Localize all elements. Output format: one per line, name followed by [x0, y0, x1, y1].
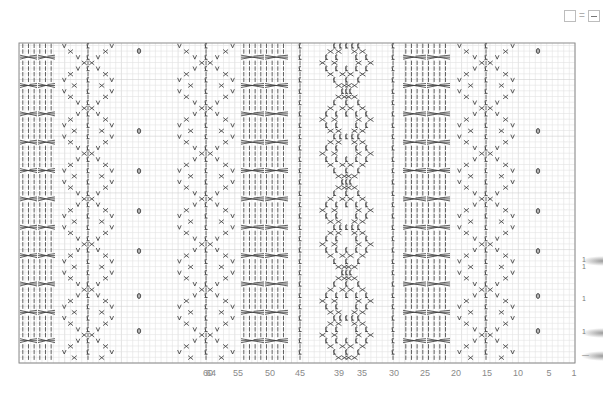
column-number-15: 15	[482, 368, 492, 378]
column-number-50: 50	[265, 368, 275, 378]
column-number-60: 60	[203, 368, 213, 378]
column-number-10: 10	[513, 368, 523, 378]
column-number-30: 30	[389, 368, 399, 378]
column-number-45: 45	[295, 368, 305, 378]
page-edge-shadow	[581, 328, 603, 338]
column-number-1: 1	[571, 368, 576, 378]
page-edge-shadow	[581, 351, 603, 361]
column-number-20: 20	[451, 368, 461, 378]
column-number-55: 55	[233, 368, 243, 378]
grid-lines	[19, 43, 575, 363]
column-number-35: 35	[357, 368, 367, 378]
column-number-39: 39	[334, 368, 344, 378]
column-number-5: 5	[546, 368, 551, 378]
row-marker: 1	[582, 295, 586, 302]
column-number-25: 25	[420, 368, 430, 378]
row-marker: 1	[582, 263, 586, 270]
knitting-chart	[0, 0, 603, 397]
